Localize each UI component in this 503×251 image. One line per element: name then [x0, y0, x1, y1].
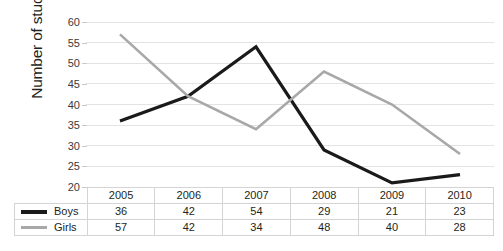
- table-cell-boys: 29: [290, 204, 358, 220]
- y-axis-tick-mark: [82, 146, 87, 147]
- y-axis-tick-35: 35: [56, 120, 80, 131]
- y-axis-tick-labels: 605550454035302520: [56, 22, 80, 187]
- y-axis-tick-mark: [82, 43, 87, 44]
- y-axis-tick-25: 25: [56, 161, 80, 172]
- table-header-2008: 2008: [290, 188, 358, 204]
- series-line-boys: [120, 47, 460, 183]
- table-cell-girls: 40: [358, 220, 426, 236]
- y-axis-tick-mark: [82, 166, 87, 167]
- legend-label-girls: Girls: [54, 220, 77, 235]
- table-cell-girls: 34: [223, 220, 291, 236]
- table-cell-boys: 21: [358, 204, 426, 220]
- plot-svg: [86, 22, 494, 187]
- table-header-2009: 2009: [358, 188, 426, 204]
- y-axis-tick-60: 60: [56, 17, 80, 28]
- y-axis-tick-45: 45: [56, 78, 80, 89]
- table-row: Boys364254292123: [15, 204, 494, 220]
- table-cell-boys: 36: [87, 204, 155, 220]
- y-axis-tick-mark: [82, 187, 87, 188]
- y-axis-tick-55: 55: [56, 37, 80, 48]
- table-cell-boys: 23: [426, 204, 494, 220]
- line-swatch-gray-icon: [21, 226, 47, 229]
- table-cell-girls: 42: [155, 220, 223, 236]
- plot-area: [86, 22, 494, 187]
- series-lines: [120, 34, 460, 183]
- y-axis-tick-mark: [82, 63, 87, 64]
- gridlines: [86, 22, 494, 187]
- y-axis-tick-mark: [82, 22, 87, 23]
- y-axis-tick-50: 50: [56, 58, 80, 69]
- table-cell-boys: 42: [155, 204, 223, 220]
- y-axis-title: Number of students: [24, 0, 50, 118]
- legend-entry-boys: Boys: [15, 204, 88, 220]
- line-swatch-black-icon: [21, 210, 47, 214]
- legend-entry-girls: Girls: [15, 220, 88, 236]
- table-header-2006: 2006: [155, 188, 223, 204]
- table-header-2010: 2010: [426, 188, 494, 204]
- table-cell-girls: 48: [290, 220, 358, 236]
- table-header-2005: 2005: [87, 188, 155, 204]
- y-axis-tick-30: 30: [56, 140, 80, 151]
- series-line-girls: [120, 34, 460, 154]
- legend-label-boys: Boys: [54, 204, 78, 219]
- line-chart-with-data-table: Number of students 605550454035302520 20…: [0, 0, 503, 251]
- table-header-2007: 2007: [223, 188, 291, 204]
- table-corner-cell: [15, 188, 88, 204]
- y-axis-tick-40: 40: [56, 99, 80, 110]
- table-row: Girls574234484028: [15, 220, 494, 236]
- table-cell-girls: 28: [426, 220, 494, 236]
- table-cell-girls: 57: [87, 220, 155, 236]
- data-table: 200520062007200820092010Boys364254292123…: [14, 187, 494, 236]
- table-cell-boys: 54: [223, 204, 291, 220]
- table-header-row: 200520062007200820092010: [15, 188, 494, 204]
- y-axis-tick-mark: [82, 125, 87, 126]
- y-axis-tick-mark: [82, 105, 87, 106]
- y-axis-tick-mark: [82, 84, 87, 85]
